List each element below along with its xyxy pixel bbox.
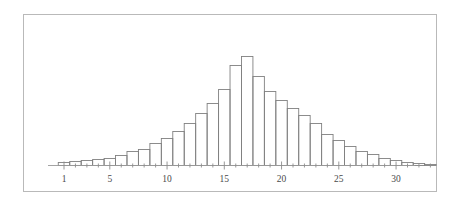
histogram-bars-group [58,57,436,166]
histogram-chart: 151015202530 [0,0,454,205]
x-axis-tick-label: 1 [62,174,67,184]
histogram-bar [322,135,333,166]
histogram-bar [173,132,184,166]
histogram-bar [345,147,356,166]
histogram-bar [138,150,149,166]
histogram-bar [150,144,161,166]
histogram-bar [161,139,172,166]
x-axis-tick-label: 10 [162,174,172,184]
histogram-bar [219,90,230,166]
x-axis-tick-label: 30 [391,174,401,184]
figure-root: 151015202530 [0,0,454,205]
histogram-bar [276,101,287,166]
x-axis-tick-label: 20 [277,174,287,184]
histogram-bar [207,104,218,166]
histogram-bar [299,116,310,166]
histogram-bar [196,114,207,166]
histogram-bar [184,124,195,166]
histogram-bar [230,66,241,166]
x-axis-tick-label: 15 [220,174,230,184]
histogram-bar [264,92,275,166]
histogram-bar [241,57,252,166]
histogram-bar [127,152,138,166]
histogram-bar [287,109,298,166]
x-axis-tick-labels-group: 151015202530 [62,174,401,184]
histogram-bar [356,152,367,166]
histogram-bar [310,124,321,166]
histogram-bar [253,77,264,166]
x-axis-tick-label: 5 [107,174,112,184]
x-axis-tick-label: 25 [334,174,344,184]
